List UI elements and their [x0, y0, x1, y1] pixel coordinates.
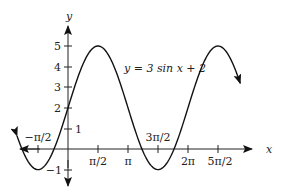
y-tick-4: 4 — [54, 61, 61, 74]
equation-label: y = 3 sin x + 2 — [123, 62, 206, 75]
y-tick-5: 5 — [54, 40, 61, 53]
x-tick-neg-pi-over-2: −π/2 — [24, 131, 51, 144]
chart-canvas: −π/2 π/2 π 3π/2 2π 5π/2 5 4 3 2 1 −1 y x… — [0, 0, 296, 196]
x-tick-2pi: 2π — [181, 155, 195, 168]
y-tick-2: 2 — [54, 102, 61, 115]
x-tick-pi: π — [124, 155, 131, 168]
x-axis-label: x — [266, 143, 273, 156]
x-tick-3pi-over-2: 3π/2 — [146, 131, 171, 144]
x-tick-pi-over-2: π/2 — [89, 155, 107, 168]
y-tick-1: 1 — [75, 123, 82, 136]
x-tick-5pi-over-2: 5π/2 — [208, 155, 233, 168]
y-tick-3: 3 — [54, 81, 61, 94]
y-tick-neg-1: −1 — [46, 164, 62, 177]
y-axis-label: y — [65, 10, 73, 23]
